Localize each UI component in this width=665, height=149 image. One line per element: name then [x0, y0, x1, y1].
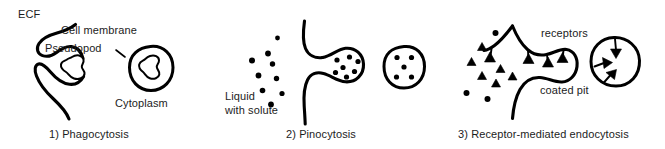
- ligand-triangle: [508, 72, 517, 80]
- label-liquid-with-solute-line1: Liquid: [225, 90, 255, 103]
- label-cytoplasm: Cytoplasm: [115, 97, 168, 110]
- solute-dot: [409, 55, 414, 60]
- solute-dot: [260, 88, 266, 94]
- ligand-triangle: [496, 65, 505, 73]
- diagram-canvas: [0, 0, 665, 149]
- solute-dot: [401, 64, 406, 69]
- label-receptors: receptors: [541, 27, 588, 40]
- label-coated-pit: coated pit: [540, 84, 589, 97]
- receptor-membrane-icon: [484, 26, 513, 51]
- solute-dot: [249, 58, 255, 64]
- ligand-triangle: [478, 72, 487, 80]
- solute-dot: [355, 59, 360, 64]
- ligand-triangle: [467, 58, 476, 66]
- solute-dot: [394, 74, 399, 79]
- solute-dot: [394, 55, 399, 60]
- solute-dot: [270, 61, 275, 66]
- solute-dot: [256, 73, 262, 79]
- pseudopod-leader-line-icon: [116, 50, 125, 57]
- receptor-with-ligand: [543, 55, 554, 67]
- solute-dot: [334, 57, 339, 62]
- solute-dot: [340, 65, 345, 70]
- solute-dot: [333, 70, 338, 75]
- solute-dot: [344, 74, 349, 79]
- engulfed-particle-icon: [61, 55, 85, 79]
- free-ligand-particles: [464, 30, 518, 102]
- pocket-solute-dots: [333, 54, 361, 79]
- label-ecf: ECF: [18, 8, 40, 21]
- solute-dot: [275, 36, 280, 41]
- pinocytic-pocket-icon: [304, 48, 364, 124]
- solute-dot: [409, 74, 414, 79]
- receptor-with-ligand: [557, 51, 568, 63]
- solute-dot: [352, 69, 357, 74]
- solute-dot: [265, 51, 271, 57]
- ligand-dot: [493, 30, 499, 36]
- solute-dot: [347, 54, 352, 59]
- label-cell-membrane: Cell membrane: [61, 24, 137, 37]
- endocytosis-diagram: ECF Cell membrane Pseudopod Cytoplasm 1)…: [0, 0, 665, 149]
- solute-dot: [279, 91, 284, 96]
- pinocytosis-upper-membrane-icon: [303, 21, 322, 58]
- ligand-dot: [485, 96, 491, 102]
- caption-pinocytosis: 2) Pinocytosis: [286, 128, 356, 140]
- solute-dot: [274, 76, 279, 81]
- caption-phagocytosis: 1) Phagocytosis: [49, 128, 129, 140]
- ligand-triangle: [478, 43, 487, 51]
- ligand-dot: [464, 90, 470, 96]
- caption-receptor-mediated-endocytosis: 3) Receptor-mediated endocytosis: [458, 128, 629, 140]
- label-liquid-with-solute-line2: with solute: [225, 104, 278, 117]
- ligand-triangle: [492, 79, 501, 87]
- label-pseudopod: Pseudopod: [45, 42, 102, 55]
